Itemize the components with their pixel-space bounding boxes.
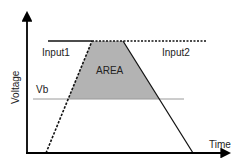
area-label: AREA [96, 65, 124, 76]
voltage-axis-label: Voltage [10, 70, 21, 104]
time-axis-label: Time [209, 139, 231, 150]
input2-label: Input2 [162, 47, 190, 58]
vb-label: Vb [36, 84, 49, 95]
input1-label: Input1 [42, 47, 70, 58]
voltage-time-diagram: Input1 Input2 AREA Vb Time Voltage [0, 0, 243, 164]
